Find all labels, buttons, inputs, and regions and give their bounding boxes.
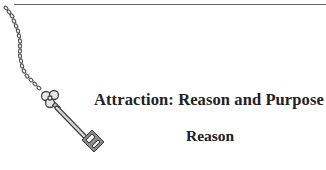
page-heading: Attraction: Reason and Purpose [94, 90, 324, 110]
key-on-chain-icon [0, 0, 120, 170]
section-subheading: Reason [186, 127, 234, 145]
